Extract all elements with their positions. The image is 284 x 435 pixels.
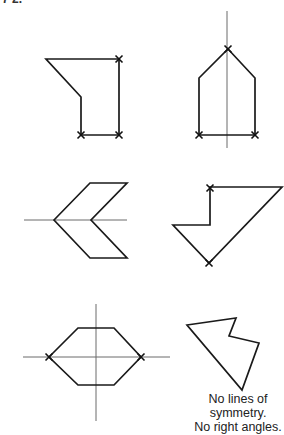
- caption-line-2: symmetry.: [190, 406, 284, 420]
- caption-line-1: No lines of: [190, 392, 284, 406]
- shapes-diagram: [0, 0, 284, 435]
- symmetry-lines: [23, 11, 227, 421]
- shape-4: [173, 187, 282, 263]
- shape-1: [46, 59, 119, 135]
- shape-6: [187, 318, 259, 390]
- caption-line-3: No right angles.: [190, 420, 284, 434]
